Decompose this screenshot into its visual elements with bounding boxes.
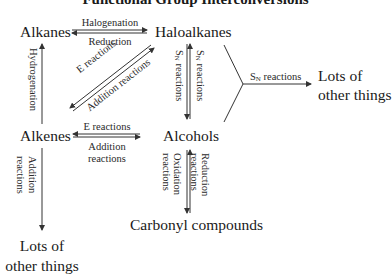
branch-upper — [224, 45, 243, 84]
label-h-addition-2: reactions — [72, 154, 142, 165]
node-alkenes: Alkenes — [20, 128, 71, 144]
branch-lower — [224, 84, 243, 122]
node-alcohols: Alcohols — [163, 128, 219, 144]
label-down-addition-1: Addition — [27, 156, 38, 193]
label-sn-left: SN reactions — [173, 50, 184, 101]
label-reduction2-2: reactions — [189, 153, 200, 191]
label-sn-right: SN reactions — [194, 50, 205, 101]
label-hydrogenation: Hydrogenation — [28, 48, 39, 111]
label-down-addition-2: reactions — [15, 156, 26, 194]
node-lots-right-2: other things — [318, 87, 392, 103]
label-reduction2-1: Reduction — [200, 153, 211, 196]
label-sn-branch: SN reactions — [250, 72, 301, 83]
label-h-addition-1: Addition — [72, 142, 142, 153]
node-lots-bottom-1: Lots of — [2, 238, 82, 254]
diag-e-arrow — [70, 45, 151, 108]
node-carbonyl: Carbonyl compounds — [130, 217, 263, 233]
label-oxidation-2: reactions — [161, 153, 172, 191]
node-lots-bottom-2: other things — [2, 258, 82, 274]
node-alkanes: Alkanes — [20, 24, 71, 40]
label-oxidation-1: Oxidation — [172, 153, 183, 195]
label-halogenation: Halogenation — [72, 18, 148, 29]
node-haloalkanes: Haloalkanes — [155, 24, 232, 40]
node-lots-right-1: Lots of — [318, 68, 362, 84]
label-h-e: E reactions — [72, 122, 142, 133]
